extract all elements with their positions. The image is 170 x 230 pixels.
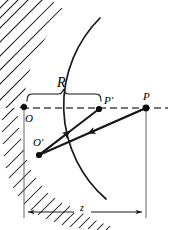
mirror-hatching-lower [2,106,121,230]
optics-ray-diagram-figure: R O O' P' P z z [0,0,170,230]
label-O-prime: O' [33,136,44,148]
label-O: O [25,112,33,124]
diagram-canvas: R O O' P' P z z [0,0,170,230]
radius-label: R [56,75,66,90]
point-dot-O [21,104,27,110]
point-dot-O-prime [36,152,42,158]
point-dot-P [143,105,150,112]
point-dot-P-prime [96,106,102,112]
distance-label-z-text: z [79,202,84,213]
label-P-prime: P' [103,94,114,106]
label-P: P [142,90,150,102]
